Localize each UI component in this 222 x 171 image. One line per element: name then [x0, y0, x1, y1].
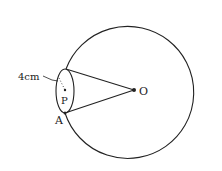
cone-generator-top: [66, 69, 134, 90]
cone-generator-bottom: [65, 90, 134, 113]
geometry-diagram: O P A 4cm: [0, 0, 222, 171]
label-o: O: [139, 85, 148, 98]
point-a-dot: [64, 112, 67, 115]
radius-dotted-line: [59, 78, 65, 90]
point-o-dot: [132, 88, 136, 92]
label-4cm: 4cm: [18, 71, 40, 82]
dimension-leader: [43, 76, 58, 81]
label-p: P: [61, 95, 68, 106]
label-a: A: [54, 114, 64, 127]
point-p-dot: [64, 89, 66, 91]
large-circle-arc: [65, 26, 194, 158]
diagram-canvas: O P A 4cm: [0, 0, 222, 171]
